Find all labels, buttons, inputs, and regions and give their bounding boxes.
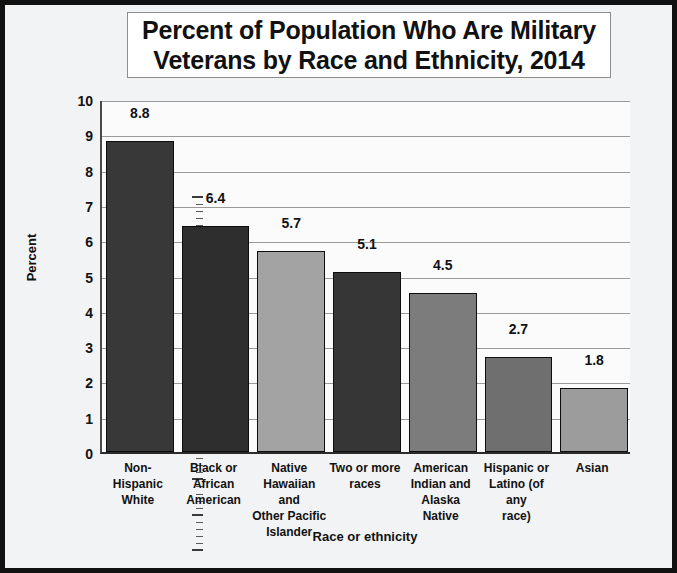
x-axis-category-label: Two or moreraces [327, 460, 403, 492]
y-axis-title: Percent [24, 213, 39, 303]
x-axis-category-labels: Non-HispanicWhiteBlack orAfricanAmerican… [100, 460, 630, 530]
x-axis-category-label: NativeHawaiian andOther PacificIslander [251, 460, 327, 540]
category-label-line: Alaska Native [403, 492, 479, 524]
category-label-line: race) [479, 508, 555, 524]
y-axis-tick-labels: 012345678910 [53, 101, 93, 454]
bar-slot: 5.7 [253, 101, 329, 452]
chart-title-line-1: Percent of Population Who Are Military [142, 15, 596, 45]
bar-slot: 6.4 [178, 101, 254, 452]
y-axis-tick-label: 4 [85, 305, 93, 321]
x-axis-category-label: Asian [554, 460, 630, 476]
y-axis-tick-label: 3 [85, 340, 93, 356]
bar-slot: 1.8 [556, 101, 632, 452]
bar-value-label: 6.4 [178, 190, 254, 206]
category-label-line: Hawaiian and [251, 476, 327, 508]
x-axis-category-label: Black orAfricanAmerican [176, 460, 252, 508]
y-axis-tick-label: 9 [85, 128, 93, 144]
bar-slot: 2.7 [481, 101, 557, 452]
y-axis-tick-label: 5 [85, 270, 93, 286]
y-axis-tick-label: 7 [85, 199, 93, 215]
bar-value-label: 5.1 [329, 236, 405, 252]
chart-figure: Percent of Population Who Are Military V… [0, 0, 677, 573]
bar[interactable] [409, 293, 477, 452]
y-axis-tick-label: 1 [85, 411, 93, 427]
category-label-line: African [176, 476, 252, 492]
bar-value-label: 8.8 [102, 105, 178, 121]
bar-value-label: 2.7 [481, 321, 557, 337]
bar[interactable] [106, 141, 174, 452]
chart-title-box: Percent of Population Who Are Military V… [127, 12, 611, 78]
bar[interactable] [182, 226, 250, 452]
y-axis-tick-label: 6 [85, 234, 93, 250]
category-label-line: Native [251, 460, 327, 476]
category-label-line: Latino (of any [479, 476, 555, 508]
x-axis-title: Race or ethnicity [100, 529, 630, 544]
bar-value-label: 4.5 [405, 257, 481, 273]
plot-area: 8.86.45.75.14.52.71.8 [100, 101, 630, 454]
category-label-line: Indian and [403, 476, 479, 492]
category-label-line: Hispanic or [479, 460, 555, 476]
x-axis-category-label: Hispanic orLatino (of anyrace) [479, 460, 555, 524]
bar[interactable] [333, 272, 401, 452]
y-axis-tick-label: 8 [85, 164, 93, 180]
category-label-line: Black or [176, 460, 252, 476]
y-axis-tick-label: 10 [77, 93, 93, 109]
bar[interactable] [257, 251, 325, 452]
bar-slot: 5.1 [329, 101, 405, 452]
chart-title-line-2: Veterans by Race and Ethnicity, 2014 [153, 45, 584, 75]
bar-value-label: 1.8 [556, 352, 632, 368]
category-label-line: American [403, 460, 479, 476]
y-axis-tick-label: 2 [85, 375, 93, 391]
x-axis-category-label: Non-HispanicWhite [100, 460, 176, 508]
category-label-line: Other Pacific [251, 508, 327, 524]
y-axis-tick-label: 0 [85, 446, 93, 462]
bar-value-label: 5.7 [253, 215, 329, 231]
bar-slot: 4.5 [405, 101, 481, 452]
category-label-line: American [176, 492, 252, 508]
category-label-line: Non-Hispanic [100, 460, 176, 492]
bar-series: 8.86.45.75.14.52.71.8 [102, 101, 630, 452]
x-axis-category-label: AmericanIndian andAlaska Native [403, 460, 479, 524]
bar-slot: 8.8 [102, 101, 178, 452]
category-label-line: Two or more [327, 460, 403, 476]
category-label-line: White [100, 492, 176, 508]
category-label-line: Asian [554, 460, 630, 476]
bar[interactable] [485, 357, 553, 452]
bar[interactable] [560, 388, 628, 452]
category-label-line: races [327, 476, 403, 492]
